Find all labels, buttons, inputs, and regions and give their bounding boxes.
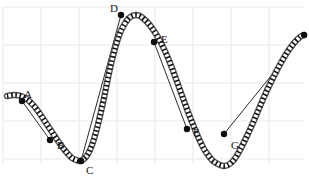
point-label-c: C — [86, 165, 93, 176]
point-label-f: F — [193, 127, 199, 138]
point-label-b: B — [57, 140, 64, 151]
figure-canvas: ABCDEFG — [0, 0, 309, 191]
point-label-e: E — [161, 34, 168, 45]
point-label-g: G — [231, 140, 239, 151]
point-label-d: D — [110, 3, 118, 14]
point-label-a: A — [24, 89, 32, 100]
point-labels-layer: ABCDEFG — [0, 0, 309, 191]
